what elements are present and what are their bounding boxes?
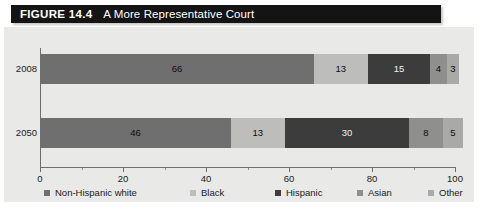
legend-label: Hispanic <box>286 187 322 198</box>
legend-item[interactable]: Non-Hispanic white <box>44 187 137 198</box>
bar-segment: 3 <box>447 54 459 84</box>
legend-label: Asian <box>368 187 392 198</box>
chart-panel: 020406080100 20082050 6613154346133085 N… <box>4 27 474 202</box>
legend-swatch-icon <box>357 190 363 196</box>
bar-segment: 15 <box>368 54 430 84</box>
x-axis-minor-tick <box>165 168 166 170</box>
legend-label: Non-Hispanic white <box>55 187 137 198</box>
x-axis-tick-label: 80 <box>367 173 378 184</box>
bar-segment: 66 <box>40 54 314 84</box>
bar-segment: 4 <box>430 54 447 84</box>
bar-segment-value: 3 <box>450 64 455 74</box>
bar-segment: 13 <box>231 118 285 148</box>
bar-segment-value: 4 <box>436 64 441 74</box>
x-axis-minor-tick <box>331 168 332 170</box>
x-axis-tick <box>289 168 290 172</box>
legend-swatch-icon <box>190 190 196 196</box>
legend-item[interactable]: Other <box>428 187 463 198</box>
bar-segment-value: 66 <box>172 64 183 74</box>
figure-title: A More Representative Court <box>103 8 254 20</box>
bar-segment: 30 <box>285 118 410 148</box>
bar-segment-value: 8 <box>423 128 428 138</box>
y-axis-category-label: 2050 <box>8 127 37 138</box>
x-axis-tick <box>372 168 373 172</box>
legend-item[interactable]: Asian <box>357 187 392 198</box>
bar-segment: 46 <box>40 118 231 148</box>
x-axis-tick <box>123 168 124 172</box>
bar-segment-value: 5 <box>450 128 455 138</box>
x-axis-tick-label: 40 <box>201 173 212 184</box>
x-axis-tick-label: 60 <box>284 173 295 184</box>
figure-title-bar: FIGURE 14.4 A More Representative Court <box>11 5 441 23</box>
x-axis-tick-label: 20 <box>118 173 129 184</box>
x-axis-tick <box>206 168 207 172</box>
bar-segment: 8 <box>409 118 442 148</box>
legend-swatch-icon <box>428 190 434 196</box>
legend-label: Black <box>201 187 224 198</box>
figure-container: FIGURE 14.4 A More Representative Court … <box>0 0 480 213</box>
bar-segment: 13 <box>314 54 368 84</box>
legend-item[interactable]: Black <box>190 187 224 198</box>
legend-label: Other <box>439 187 463 198</box>
bar-segment-value: 15 <box>394 64 405 74</box>
figure-number-label: FIGURE 14.4 <box>20 8 92 20</box>
x-axis-tick <box>455 168 456 172</box>
x-axis-tick-label: 0 <box>37 173 42 184</box>
x-axis-minor-tick <box>414 168 415 170</box>
y-axis-category-label: 2008 <box>8 63 37 74</box>
x-axis-minor-tick <box>248 168 249 170</box>
legend-swatch-icon <box>44 190 50 196</box>
bar-segment-value: 13 <box>253 128 264 138</box>
legend-item[interactable]: Hispanic <box>275 187 322 198</box>
legend-swatch-icon <box>275 190 281 196</box>
x-axis-minor-tick <box>82 168 83 170</box>
x-axis-tick <box>40 168 41 172</box>
chart-legend: Non-Hispanic whiteBlackHispanicAsianOthe… <box>40 187 456 201</box>
bar-segment-value: 13 <box>336 64 347 74</box>
bar-segment-value: 30 <box>342 128 353 138</box>
bar-2050: 46133085 <box>40 118 455 148</box>
bar-segment-value: 46 <box>130 128 141 138</box>
x-axis-tick-label: 100 <box>447 173 463 184</box>
bar-2008: 66131543 <box>40 54 455 84</box>
bar-segment: 5 <box>443 118 464 148</box>
stacked-bars-area: 6613154346133085 <box>40 48 455 167</box>
